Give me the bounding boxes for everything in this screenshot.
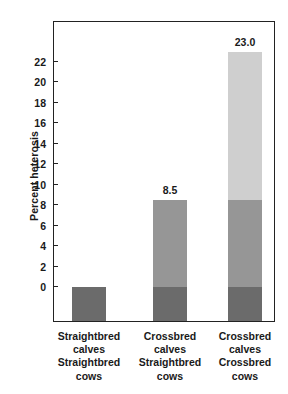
bar-chart: Percent heterosis 0246810121416182022 8.… — [0, 0, 288, 394]
y-tick-label: 0 — [0, 280, 46, 294]
y-tick-label: 22 — [0, 55, 46, 69]
y-tick-mark — [53, 184, 58, 185]
bar-3-segment-maternal — [228, 52, 262, 200]
bar-2-segment-base — [153, 287, 187, 321]
y-tick-mark — [53, 163, 58, 164]
y-tick-label: 20 — [0, 75, 46, 89]
y-tick-mark — [53, 286, 58, 287]
y-tick-mark — [53, 143, 58, 144]
bar-1-segment-base — [72, 287, 106, 321]
y-tick-mark — [53, 225, 58, 226]
y-tick-mark — [53, 102, 58, 103]
y-tick-label: 12 — [0, 157, 46, 171]
y-tick-label: 18 — [0, 96, 46, 110]
y-tick-label: 8 — [0, 198, 46, 212]
y-tick-label: 10 — [0, 178, 46, 192]
bar-2-value-label: 8.5 — [135, 184, 205, 196]
bar-3 — [228, 52, 262, 321]
bar-2-segment-individual — [153, 200, 187, 287]
y-tick-mark — [53, 81, 58, 82]
bar-3-value-label: 23.0 — [210, 36, 280, 48]
y-tick-label: 16 — [0, 116, 46, 130]
x-axis-label-line: calves — [193, 343, 288, 356]
y-tick-mark — [53, 245, 58, 246]
x-axis-label-3: CrossbredcalvesCrossbredcows — [193, 330, 288, 383]
x-axis-label-line: Crossbred — [193, 356, 288, 369]
bar-3-segment-base — [228, 287, 262, 321]
y-tick-label: 4 — [0, 239, 46, 253]
x-axis-label-line: cows — [193, 370, 288, 383]
y-tick-label: 14 — [0, 137, 46, 151]
x-axis-label-line: Crossbred — [193, 330, 288, 343]
bar-2 — [153, 200, 187, 321]
bar-1 — [72, 287, 106, 321]
y-tick-mark — [53, 122, 58, 123]
y-tick-mark — [53, 204, 58, 205]
y-tick-mark — [53, 61, 58, 62]
y-tick-label: 6 — [0, 219, 46, 233]
y-tick-mark — [53, 266, 58, 267]
bar-3-segment-individual — [228, 200, 262, 287]
y-tick-label: 2 — [0, 260, 46, 274]
